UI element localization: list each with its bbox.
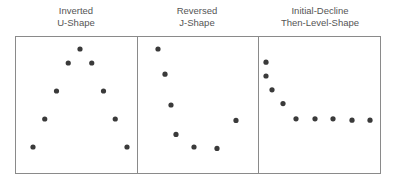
- data-point-initial-decline-then-level-5: [312, 116, 317, 121]
- data-point-initial-decline-then-level-1: [263, 73, 268, 78]
- data-point-reversed-j-6: [233, 118, 238, 123]
- panel-frame-inverted-u: [16, 37, 138, 174]
- data-point-inverted-u-3: [66, 60, 71, 65]
- panel-frame-reversed-j: [138, 37, 259, 174]
- data-point-inverted-u-7: [113, 116, 118, 121]
- data-point-reversed-j-3: [173, 132, 178, 137]
- data-point-initial-decline-then-level-7: [349, 118, 354, 123]
- data-point-inverted-u-8: [124, 144, 129, 149]
- data-point-inverted-u-6: [101, 88, 106, 93]
- data-point-reversed-j-5: [214, 146, 219, 151]
- data-point-initial-decline-then-level-8: [367, 118, 372, 123]
- data-point-reversed-j-4: [191, 144, 196, 149]
- data-point-reversed-j-2: [168, 102, 173, 107]
- data-point-reversed-j-0: [155, 46, 160, 51]
- data-point-initial-decline-then-level-3: [280, 101, 285, 106]
- data-point-inverted-u-4: [77, 46, 82, 51]
- data-point-inverted-u-1: [42, 116, 47, 121]
- shape-diagram: [0, 0, 402, 183]
- data-point-initial-decline-then-level-6: [330, 116, 335, 121]
- panel-frame-initial-decline: [259, 37, 381, 174]
- data-point-inverted-u-2: [54, 88, 59, 93]
- data-point-initial-decline-then-level-4: [293, 116, 298, 121]
- data-point-initial-decline-then-level-0: [263, 60, 268, 65]
- data-point-initial-decline-then-level-2: [269, 87, 274, 92]
- data-point-reversed-j-1: [162, 72, 167, 77]
- data-point-inverted-u-0: [30, 144, 35, 149]
- data-point-inverted-u-5: [89, 60, 94, 65]
